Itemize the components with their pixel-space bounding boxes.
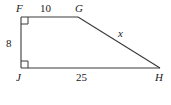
vertex-label-F: F [16, 3, 23, 14]
figure-canvas [0, 0, 171, 105]
side-label-GH-unknown: x [118, 28, 123, 39]
side-label-JH: 25 [76, 72, 87, 83]
vertex-label-J: J [16, 72, 21, 83]
side-label-FG: 10 [40, 3, 51, 14]
right-angle-marker-J-icon [21, 61, 28, 68]
side-label-FJ: 8 [6, 38, 12, 49]
right-angle-marker-F-icon [21, 17, 28, 24]
geometry-figure: F G H J 10 8 25 x [0, 0, 171, 105]
vertex-label-G: G [75, 3, 83, 14]
side-GH-hypotenuse-line [78, 17, 160, 68]
vertex-label-H: H [155, 72, 163, 83]
